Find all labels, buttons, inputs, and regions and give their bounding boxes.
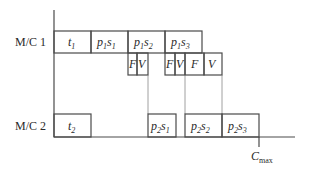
task-label-p2s2: p2s2 [190, 119, 210, 135]
task-label-t1: t1 [68, 35, 75, 51]
subtask-label-f-3: F [190, 57, 199, 71]
task-label-p1s2: p1s2 [133, 35, 153, 51]
subtask-label-v-1: V [138, 57, 147, 71]
machine-label-2: M/C 2 [15, 119, 46, 133]
task-label-p1s3: p1s3 [170, 35, 190, 51]
gantt-diagram: M/C 1 M/C 2 t1 p1s1 p1s2 p1s3 F V F V F … [0, 0, 311, 173]
mc2-row: t2 p2s1 p2s2 p2s3 [54, 114, 259, 137]
mc1-row: t1 p1s1 p1s2 p1s3 [54, 31, 202, 53]
task-label-p2s1: p2s1 [150, 119, 170, 135]
cmax-label: Cmax [251, 149, 273, 165]
task-label-t2: t2 [68, 119, 75, 135]
mc1-fv-row: F V F V F V [128, 53, 222, 75]
task-label-p1s1: p1s1 [96, 35, 116, 51]
subtask-label-f-2: F [165, 57, 174, 71]
task-label-p2s3: p2s3 [227, 119, 247, 135]
subtask-label-v-2: V [176, 57, 185, 71]
subtask-label-f-1: F [128, 57, 137, 71]
machine-label-1: M/C 1 [15, 35, 46, 49]
subtask-label-v-3: V [208, 57, 217, 71]
